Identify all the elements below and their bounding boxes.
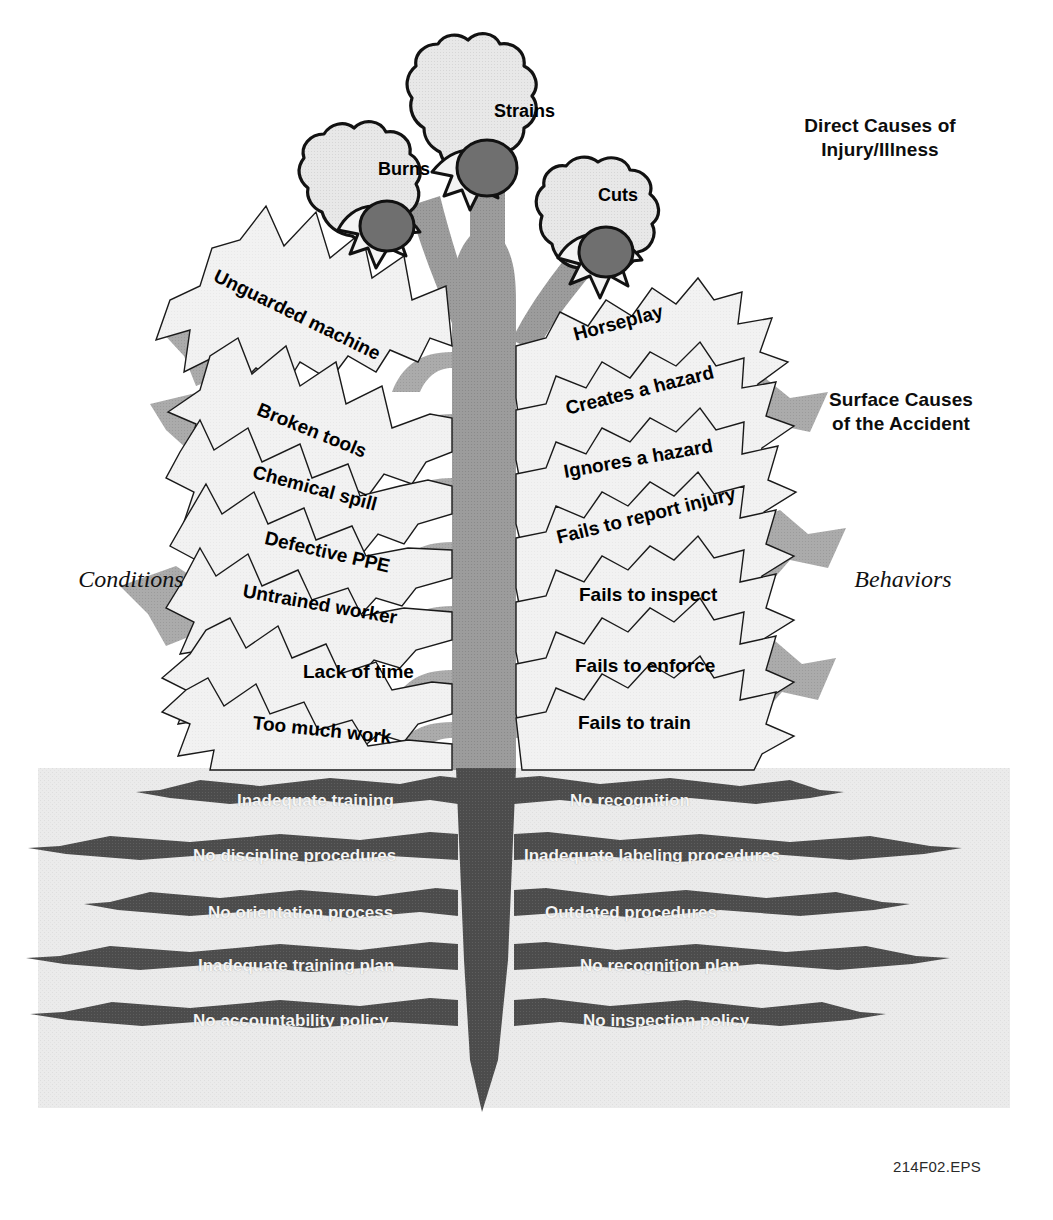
heading-surface-causes: Surface Causes of the Accident	[790, 388, 1012, 437]
figure-canvas: Direct Causes of Injury/Illness Surface …	[0, 0, 1053, 1220]
flower-strains	[407, 34, 536, 210]
label-behaviors: Behaviors	[818, 566, 988, 593]
tree-illustration	[0, 0, 1053, 1220]
heading-direct-causes: Direct Causes of Injury/Illness	[762, 114, 998, 163]
leaf-group-right	[516, 278, 796, 770]
label-conditions: Conditions	[46, 566, 216, 593]
figure-code: 214F02.EPS	[893, 1158, 981, 1175]
soil-region	[38, 768, 1010, 1108]
